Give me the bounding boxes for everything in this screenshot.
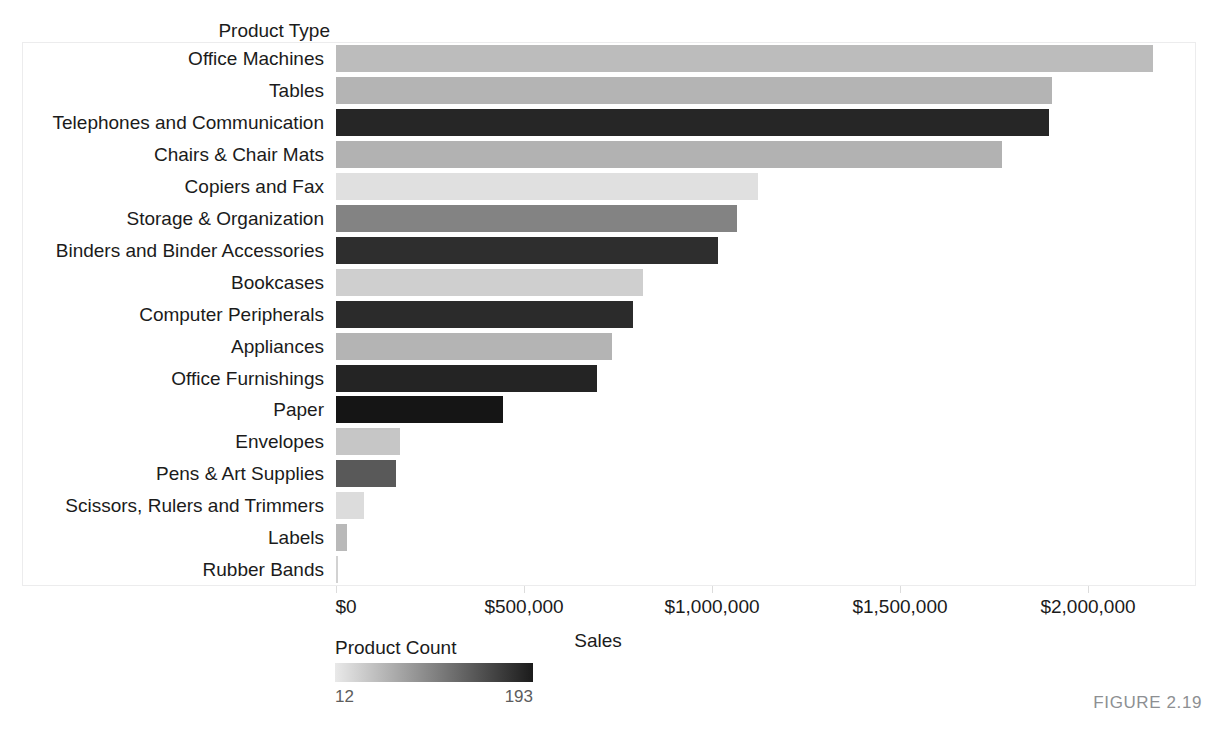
bar-row: Scissors, Rulers and Trimmers	[0, 490, 1196, 522]
category-label: Office Machines	[0, 43, 328, 75]
bar-row: Rubber Bands	[0, 554, 1196, 586]
x-tick-label: $1,000,000	[664, 596, 759, 618]
bar-row: Pens & Art Supplies	[0, 458, 1196, 490]
bar[interactable]	[336, 237, 718, 264]
legend-min-label: 12	[335, 687, 354, 707]
category-label: Scissors, Rulers and Trimmers	[0, 490, 328, 522]
bar[interactable]	[336, 77, 1052, 104]
bar[interactable]	[336, 109, 1049, 136]
category-label: Bookcases	[0, 267, 328, 299]
legend-gradient-bar	[335, 663, 533, 682]
bar[interactable]	[336, 365, 597, 392]
category-label: Rubber Bands	[0, 554, 328, 586]
bar[interactable]	[336, 460, 396, 487]
category-label: Paper	[0, 394, 328, 426]
x-tick-mark	[336, 586, 337, 593]
legend-title: Product Count	[335, 637, 456, 659]
bar[interactable]	[336, 492, 364, 519]
category-label: Appliances	[0, 331, 328, 363]
x-axis-title: Sales	[0, 630, 1196, 652]
bar-row: Telephones and Communication	[0, 107, 1196, 139]
bar[interactable]	[336, 333, 612, 360]
bar-row: Storage & Organization	[0, 203, 1196, 235]
bar-row: Chairs & Chair Mats	[0, 139, 1196, 171]
bar-row: Computer Peripherals	[0, 299, 1196, 331]
category-label: Tables	[0, 75, 328, 107]
bar[interactable]	[336, 45, 1153, 72]
figure-caption: FIGURE 2.19	[1093, 693, 1202, 713]
bar[interactable]	[336, 301, 633, 328]
bar[interactable]	[336, 428, 400, 455]
bar[interactable]	[336, 205, 737, 232]
bar-row: Labels	[0, 522, 1196, 554]
x-tick-label: $1,500,000	[852, 596, 947, 618]
category-label: Labels	[0, 522, 328, 554]
bar[interactable]	[336, 173, 758, 200]
bar-row: Envelopes	[0, 426, 1196, 458]
legend-max-label: 193	[505, 687, 533, 707]
category-label: Computer Peripherals	[0, 299, 328, 331]
bar[interactable]	[336, 141, 1002, 168]
x-axis: Sales $0$500,000$1,000,000$1,500,000$2,0…	[0, 586, 1220, 646]
category-label: Envelopes	[0, 426, 328, 458]
x-tick-label: $0	[335, 596, 356, 618]
category-label: Pens & Art Supplies	[0, 458, 328, 490]
category-label: Office Furnishings	[0, 363, 328, 395]
bar[interactable]	[336, 556, 338, 583]
x-tick-mark	[1088, 586, 1089, 593]
bar-rows: Office MachinesTablesTelephones and Comm…	[0, 43, 1196, 586]
x-tick-label: $500,000	[484, 596, 563, 618]
x-tick-mark	[712, 586, 713, 593]
x-tick-mark	[524, 586, 525, 593]
bar-row: Tables	[0, 75, 1196, 107]
bar-row: Paper	[0, 394, 1196, 426]
category-label: Chairs & Chair Mats	[0, 139, 328, 171]
bar[interactable]	[336, 524, 347, 551]
bar-row: Appliances	[0, 331, 1196, 363]
color-legend: Product Count 12 193	[335, 637, 565, 717]
bar-row: Binders and Binder Accessories	[0, 235, 1196, 267]
bar-row: Office Machines	[0, 43, 1196, 75]
bar[interactable]	[336, 269, 643, 296]
y-axis-title: Product Type	[0, 20, 330, 42]
x-tick-mark	[900, 586, 901, 593]
category-label: Telephones and Communication	[0, 107, 328, 139]
category-label: Binders and Binder Accessories	[0, 235, 328, 267]
category-label: Copiers and Fax	[0, 171, 328, 203]
bar-row: Office Furnishings	[0, 363, 1196, 395]
bar-row: Copiers and Fax	[0, 171, 1196, 203]
category-label: Storage & Organization	[0, 203, 328, 235]
bar[interactable]	[336, 396, 503, 423]
x-tick-label: $2,000,000	[1040, 596, 1135, 618]
bar-row: Bookcases	[0, 267, 1196, 299]
